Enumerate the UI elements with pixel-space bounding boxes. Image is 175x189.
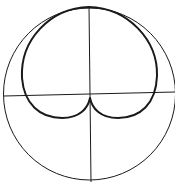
- polar-pattern-diagram: [0, 0, 175, 189]
